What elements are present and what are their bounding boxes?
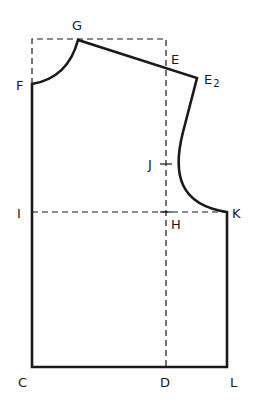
label-E2-sub: 2	[213, 78, 219, 89]
label-I: I	[17, 206, 21, 221]
pattern-diagram: G F E E2 J I H K C D L	[0, 0, 257, 405]
label-C: C	[18, 375, 27, 390]
label-G: G	[72, 18, 82, 33]
label-D: D	[160, 375, 170, 390]
label-H: H	[171, 217, 181, 232]
label-J: J	[147, 157, 152, 172]
label-K: K	[232, 206, 241, 221]
construction-rect-top	[32, 39, 166, 367]
label-E: E	[171, 52, 179, 67]
label-E2: E2	[204, 72, 220, 89]
bodice-outline	[32, 40, 227, 367]
label-L: L	[230, 375, 238, 390]
label-F: F	[16, 78, 23, 93]
label-E2-main: E	[204, 72, 212, 87]
